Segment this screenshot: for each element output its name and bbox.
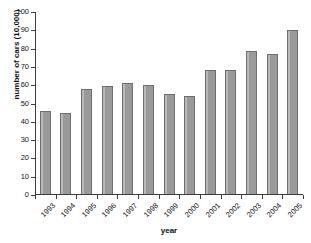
x-tick-mark xyxy=(138,195,139,199)
y-tick-label: 70 xyxy=(21,62,29,71)
y-tick-mark xyxy=(31,85,35,86)
y-tick-mark xyxy=(31,49,35,50)
x-axis-title: year xyxy=(35,226,303,235)
y-tick-label: 0 xyxy=(25,190,29,199)
x-tick-label: 1999 xyxy=(162,201,180,219)
plot-area: 0102030405060708090100 19931994199519961… xyxy=(35,12,303,195)
bar-1994 xyxy=(60,113,71,194)
x-tick-mark xyxy=(282,195,283,199)
y-axis-title: number of cars (10,000) xyxy=(12,0,21,125)
x-tick-label: 1997 xyxy=(121,201,139,219)
bar-1993 xyxy=(40,111,51,194)
y-tick-mark xyxy=(31,122,35,123)
x-tick-mark xyxy=(56,195,57,199)
x-tick-mark xyxy=(159,195,160,199)
bar-1998 xyxy=(143,85,154,194)
bar-2003 xyxy=(246,51,257,194)
y-tick-label: 60 xyxy=(21,80,29,89)
x-tick-mark xyxy=(303,195,304,199)
y-tick-mark xyxy=(31,140,35,141)
x-tick-mark xyxy=(76,195,77,199)
bar-1997 xyxy=(122,83,133,194)
x-tick-label: 2004 xyxy=(265,201,283,219)
x-tick-mark xyxy=(262,195,263,199)
y-tick-label: 10 xyxy=(21,172,29,181)
bar-2001 xyxy=(205,70,216,194)
x-tick-label: 2003 xyxy=(245,201,263,219)
x-tick-label: 1993 xyxy=(38,201,56,219)
y-tick-mark xyxy=(31,104,35,105)
y-tick-label: 30 xyxy=(21,135,29,144)
y-axis-line xyxy=(35,12,36,196)
y-tick-label: 90 xyxy=(21,25,29,34)
y-tick-label: 50 xyxy=(21,99,29,108)
x-tick-mark xyxy=(200,195,201,199)
x-tick-mark xyxy=(117,195,118,199)
y-tick-mark xyxy=(31,12,35,13)
x-tick-mark xyxy=(241,195,242,199)
bar-2005 xyxy=(287,30,298,194)
y-tick-label: 80 xyxy=(21,44,29,53)
y-tick-label: 40 xyxy=(21,117,29,126)
x-tick-label: 2002 xyxy=(224,201,242,219)
bar-2002 xyxy=(225,70,236,194)
x-tick-label: 1998 xyxy=(142,201,160,219)
x-tick-mark xyxy=(221,195,222,199)
y-tick-mark xyxy=(31,177,35,178)
x-tick-label: 1996 xyxy=(100,201,118,219)
x-tick-label: 1995 xyxy=(80,201,98,219)
y-tick-mark xyxy=(31,158,35,159)
y-tick-mark xyxy=(31,67,35,68)
y-tick-mark xyxy=(31,30,35,31)
bar-1995 xyxy=(81,89,92,194)
x-tick-mark xyxy=(35,195,36,199)
x-tick-label: 2001 xyxy=(203,201,221,219)
bar-1999 xyxy=(164,94,175,194)
x-tick-label: 2005 xyxy=(286,201,304,219)
y-tick-label: 100 xyxy=(16,7,29,16)
x-axis-line xyxy=(35,194,303,195)
x-tick-mark xyxy=(97,195,98,199)
bar-2000 xyxy=(184,96,195,194)
y-tick-label: 20 xyxy=(21,153,29,162)
x-tick-label: 2000 xyxy=(183,201,201,219)
bar-1996 xyxy=(102,86,113,194)
x-tick-label: 1994 xyxy=(59,201,77,219)
bar-chart: number of cars (10,000) 0102030405060708… xyxy=(0,0,311,243)
bar-2004 xyxy=(267,54,278,194)
x-tick-mark xyxy=(179,195,180,199)
